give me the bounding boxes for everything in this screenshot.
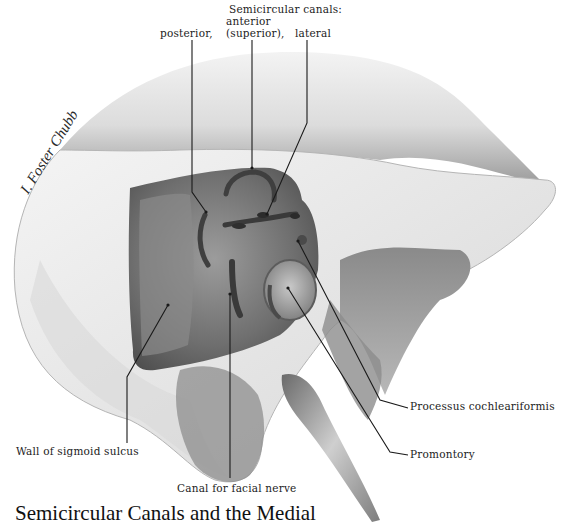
label-promontory: Promontory: [410, 448, 475, 460]
label-lateral: lateral: [295, 27, 331, 39]
anatomy-figure: I. Foster Chubb Semicircular canals: ant…: [0, 0, 571, 522]
label-anterior-line2: (superior),: [226, 27, 285, 39]
sigmoid-wall: [139, 194, 193, 356]
temporal-bone-illustration: I. Foster Chubb: [0, 0, 571, 522]
canal-opening: [290, 213, 300, 219]
label-anterior-line1: anterior: [226, 15, 271, 27]
canal-opening: [232, 223, 246, 229]
label-posterior: posterior,: [160, 27, 213, 39]
label-wall-of-sigmoid-sulcus: Wall of sigmoid sulcus: [16, 445, 139, 457]
label-canal-for-facial-nerve: Canal for facial nerve: [177, 482, 296, 494]
label-semicircular-canals: Semicircular canals:: [229, 3, 342, 15]
label-processus-cochleariformis: Processus cochleariformis: [410, 400, 555, 412]
figure-caption: Semicircular Canals and the Medial: [15, 501, 316, 522]
